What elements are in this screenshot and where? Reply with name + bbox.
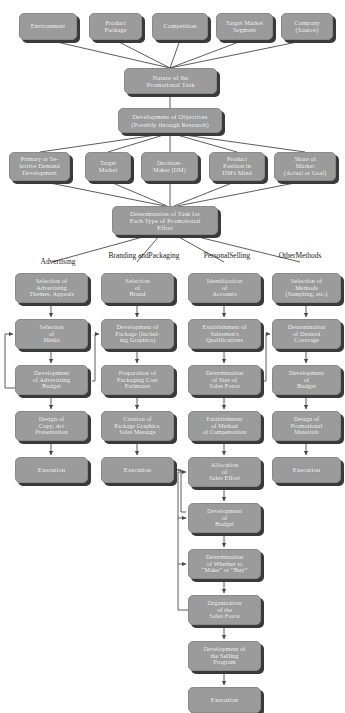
node-label: Preparation ofPackaging CostEstimates: [117, 370, 158, 390]
node-adv-media: SelectionofMedia: [15, 319, 88, 349]
node-method-compensation: Establishmentof Methodof Compensation: [188, 411, 261, 441]
column-header-2: PersonalSelling: [185, 252, 269, 260]
node-label: Execution: [124, 466, 151, 473]
node-label: AllocationofSales Effort: [209, 462, 240, 482]
node-label: ProductPosition inDM's Mind: [222, 156, 251, 176]
node-label: Nature of thePromotional Task: [146, 74, 194, 88]
node-label: Design ofCopy, ArtPresentation: [35, 416, 67, 436]
node-label: Developmentof AdvertisingBudget: [33, 370, 71, 390]
node-sales-budget: DevelopmentofBudget: [188, 503, 261, 533]
node-label: Determinationof DesiredCoverage: [288, 324, 326, 344]
node-brand-execution: Execution: [101, 457, 174, 483]
node-salesmen-qualifications: Establishment ofSalesmen'sQualifications: [188, 319, 261, 349]
node-label: Execution: [293, 466, 320, 473]
node-adv-execution: Execution: [15, 457, 88, 483]
node-adv-themes: Selection ofAdvertisingThemes, Appeals: [15, 273, 88, 303]
node-other-execution: Execution: [272, 457, 341, 483]
node-label: Decision-Maker (DM): [153, 160, 186, 173]
node-label: Development ofthe SellingProgram: [203, 646, 245, 666]
node-label: Selection ofAdvertisingThemes, Appeals: [29, 278, 74, 298]
node-organization-sales-force: Organizationof theSales Force: [188, 595, 261, 625]
node-label: Share ofMarket(Actual or Goal): [284, 156, 327, 176]
node-label: Execution: [211, 696, 238, 703]
node-label: Establishmentof Methodof Compensation: [203, 416, 246, 436]
node-identification-accounts: IdentificationofAccounts: [188, 273, 261, 303]
node-label: DevelopmentofBudget: [289, 370, 324, 390]
column-header-0: Advertising: [14, 258, 102, 266]
node-label: Determinationof Size ofSales Force: [206, 370, 244, 390]
column-header-3: OtherMethods: [262, 252, 338, 260]
node-size-sales-force: Determinationof Size ofSales Force: [188, 365, 261, 395]
node-package-graphics: Creation ofPackage Graphics,Sales Messag…: [101, 411, 174, 441]
node-label: Establishment ofSalesmen'sQualifications: [202, 324, 246, 344]
node-label: SelectionofBrand: [125, 278, 149, 298]
node-label: Selection ofMethods(Sampling, etc.): [286, 278, 328, 298]
node-label: Target MarketSegment: [226, 20, 263, 34]
node-share-of-market: Share ofMarket(Actual or Goal): [274, 152, 336, 181]
node-allocation-sales-effort: AllocationofSales Effort: [188, 457, 261, 487]
node-label: Environment: [31, 23, 65, 30]
node-label: Primary or Se-lective DemandDevelopment: [19, 156, 59, 176]
node-selling-program: Development ofthe SellingProgram: [188, 641, 261, 671]
node-packaging-cost: Preparation ofPackaging CostEstimates: [101, 365, 174, 395]
node-adv-copy-art: Design ofCopy, ArtPresentation: [15, 411, 88, 441]
node-label: Determinationof Whether to“Make” or “Buy…: [202, 554, 248, 574]
node-label: Company(Source): [294, 20, 320, 34]
node-determination-of-task: Determination of Task forEach Type of Pr…: [112, 206, 218, 235]
node-label: Competition: [163, 23, 196, 30]
node-target-market: TargetMarket: [85, 152, 131, 181]
node-development-of-objectives: Development of Objectives(Possibly throu…: [118, 108, 222, 133]
node-desired-coverage: Determinationof DesiredCoverage: [272, 319, 341, 349]
node-label: IdentificationofAccounts: [207, 278, 242, 298]
node-promotional-materials: Design ofPromotionalMaterials: [272, 411, 341, 441]
node-nature-of-task: Nature of thePromotional Task: [124, 68, 217, 94]
node-product-position: ProductPosition inDM's Mind: [209, 152, 265, 181]
node-make-or-buy: Determinationof Whether to“Make” or “Buy…: [188, 549, 261, 579]
node-label: Execution: [38, 466, 65, 473]
node-primary-selective-demand: Primary or Se-lective DemandDevelopment: [9, 152, 70, 181]
node-selling-execution: Execution: [188, 687, 261, 713]
column-header-1: Branding andPackaging: [100, 252, 188, 260]
node-competition: Competition: [152, 13, 208, 40]
node-target-market-segment: Target MarketSegment: [216, 13, 273, 40]
node-decision-maker: Decision-Maker (DM): [141, 152, 198, 181]
node-other-budget: DevelopmentofBudget: [272, 365, 341, 395]
node-label: Development ofPackage (Includ-ing Graphi…: [115, 324, 159, 344]
node-label: ProductPackage: [105, 20, 127, 34]
node-label: Organizationof theSales Force: [208, 600, 242, 620]
node-package-development: Development ofPackage (Includ-ing Graphi…: [101, 319, 174, 349]
node-label: Development of Objectives(Possibly throu…: [131, 113, 208, 127]
node-label: SelectionofMedia: [39, 324, 63, 344]
node-label: DevelopmentofBudget: [207, 508, 242, 528]
node-label: TargetMarket: [99, 160, 117, 173]
node-company-source: Company(Source): [281, 13, 333, 40]
node-brand-selection: SelectionofBrand: [101, 273, 174, 303]
node-other-methods-selection: Selection ofMethods(Sampling, etc.): [272, 273, 341, 303]
node-label: Creation ofPackage Graphics,Sales Messag…: [114, 416, 160, 435]
node-label: Determination of Task forEach Type of Pr…: [130, 210, 201, 231]
node-environment: Environment: [19, 13, 77, 40]
node-product-package: ProductPackage: [89, 13, 142, 40]
node-adv-budget: Developmentof AdvertisingBudget: [15, 365, 88, 395]
node-label: Design ofPromotionalMaterials: [290, 416, 322, 436]
